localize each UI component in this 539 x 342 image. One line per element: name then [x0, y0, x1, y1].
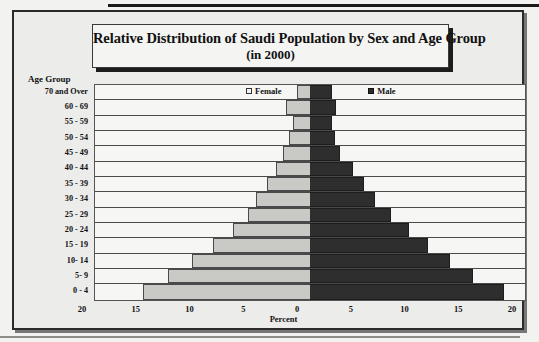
y-tick-label: 60 - 69 [14, 102, 88, 111]
y-tick-label: 40 - 44 [14, 163, 88, 172]
y-tick-label: 5- 9 [14, 271, 88, 280]
bar-male [310, 85, 332, 99]
bar-male [310, 254, 450, 268]
chart-title-plaque: Relative Distribution of Saudi Populatio… [92, 24, 449, 68]
x-tick-label: 20 [499, 304, 525, 314]
pyramid-row [95, 100, 525, 115]
pyramid-row [95, 85, 525, 100]
pyramid-row [95, 116, 525, 131]
y-tick-label: 30 - 34 [14, 194, 88, 203]
bar-male [310, 269, 473, 283]
x-tick-label: 0 [284, 304, 310, 314]
x-tick-label: 5 [338, 304, 364, 314]
pyramid-row [95, 177, 525, 192]
x-tick-label: 10 [392, 304, 418, 314]
bar-male [310, 116, 332, 130]
bar-male [310, 146, 340, 160]
pyramid-row [95, 269, 525, 284]
bar-female [192, 254, 310, 268]
x-tick-label: 15 [445, 304, 471, 314]
y-tick-label: 0 - 4 [14, 286, 88, 295]
pyramid-row [95, 208, 525, 223]
plot-area [94, 84, 526, 301]
y-tick-label: 55 - 59 [14, 117, 88, 126]
chart-title-line-2: (in 2000) [93, 47, 448, 63]
bar-female [276, 162, 310, 176]
bar-female [256, 192, 310, 206]
chart-title-line-1: Relative Distribution of Saudi Populatio… [93, 30, 448, 47]
figure-page: Relative Distribution of Saudi Populatio… [0, 0, 539, 342]
bar-female [297, 85, 310, 99]
pyramid-row [95, 192, 525, 207]
bottom-rule-divider [0, 336, 520, 338]
pyramid-row [95, 131, 525, 146]
bar-female [143, 284, 310, 299]
bar-male [310, 100, 336, 114]
x-tick-label: 5 [230, 304, 256, 314]
bar-female [233, 223, 310, 237]
x-tick-label: 10 [177, 304, 203, 314]
x-tick-label: 20 [69, 304, 95, 314]
chart-outer-frame: Relative Distribution of Saudi Populatio… [12, 10, 524, 330]
top-rule-divider [108, 4, 539, 7]
bar-female [267, 177, 310, 191]
pyramid-row [95, 238, 525, 253]
y-tick-label: 10- 14 [14, 256, 88, 265]
pyramid-row [95, 162, 525, 177]
bar-male [310, 177, 364, 191]
y-tick-label: 70 and Over [14, 87, 88, 96]
bar-male [310, 131, 335, 145]
bar-female [168, 269, 310, 283]
bar-male [310, 162, 353, 176]
y-tick-label: 20 - 24 [14, 225, 88, 234]
bar-male [310, 192, 375, 206]
bar-female [289, 131, 311, 145]
x-axis-title: Percent [14, 314, 539, 324]
pyramid-row [95, 254, 525, 269]
bar-female [248, 208, 310, 222]
bar-female [286, 100, 310, 114]
bar-female [213, 238, 310, 252]
bar-male [310, 284, 504, 299]
bar-female [283, 146, 310, 160]
y-tick-label: 35 - 39 [14, 179, 88, 188]
pyramid-row [95, 146, 525, 161]
pyramid-row [95, 284, 525, 299]
pyramid-row [95, 223, 525, 238]
bar-male [310, 208, 391, 222]
y-tick-label: 25 - 29 [14, 210, 88, 219]
y-tick-label: 15 - 19 [14, 240, 88, 249]
y-axis-title: Age Group [28, 74, 98, 84]
x-tick-label: 15 [123, 304, 149, 314]
y-tick-label: 45 - 49 [14, 148, 88, 157]
bar-male [310, 238, 428, 252]
bar-male [310, 223, 409, 237]
bar-female [293, 116, 310, 130]
y-tick-label: 50 - 54 [14, 133, 88, 142]
